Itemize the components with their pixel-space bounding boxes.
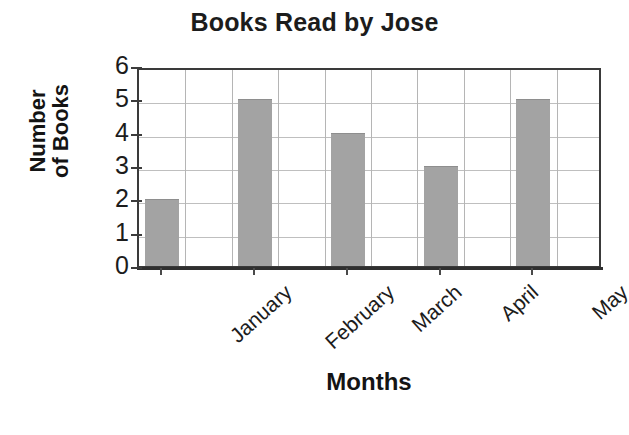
y-axis-title-line-2: of Books: [49, 84, 72, 178]
y-axis-tick-label: 3: [101, 153, 129, 178]
x-axis-tick-mark: [253, 268, 255, 275]
bar-april: [424, 166, 458, 266]
bar-may: [516, 99, 550, 266]
y-axis-tick-label: 1: [101, 220, 129, 245]
x-axis-tick-label-february: February: [321, 280, 400, 354]
x-axis-title: Months: [137, 368, 601, 396]
x-axis-tick-label-april: April: [496, 280, 543, 326]
y-axis-tick-mark: [131, 134, 142, 136]
x-axis-tick-mark: [439, 268, 441, 275]
y-axis-tick-label: 4: [101, 120, 129, 145]
y-axis-tick-label: 2: [101, 186, 129, 211]
y-axis-tick-mark: [131, 234, 142, 236]
chart-title: Books Read by Jose: [0, 8, 629, 37]
y-axis-tick-mark: [131, 267, 142, 269]
y-axis-title: Number of Books: [18, 46, 80, 216]
bar-february: [238, 99, 272, 266]
x-axis-tick-mark: [160, 268, 162, 275]
plot-area: [137, 68, 601, 268]
y-axis-tick-mark: [131, 67, 142, 69]
y-axis-title-line-1: Number: [26, 89, 49, 172]
y-axis-tick-mark: [131, 100, 142, 102]
y-axis-tick-mark: [131, 200, 142, 202]
x-axis-tick-label-group: JanuaryFebruaryMarchAprilMay: [0, 268, 629, 378]
y-axis-tick-label: 5: [101, 86, 129, 111]
y-axis-tick-mark: [131, 167, 142, 169]
bar-chart-figure: Books Read by Jose Number of Books 01234…: [0, 0, 629, 435]
x-axis-tick-mark: [531, 268, 533, 275]
x-axis-tick-label-march: March: [407, 280, 466, 337]
bar-january: [145, 199, 179, 266]
bar-march: [331, 133, 365, 266]
y-axis-tick-label: 6: [101, 53, 129, 78]
x-axis-tick-mark: [346, 268, 348, 275]
x-axis-tick-label-january: January: [225, 280, 297, 348]
x-axis-tick-label-may: May: [587, 280, 629, 324]
bar-series: [139, 70, 599, 266]
